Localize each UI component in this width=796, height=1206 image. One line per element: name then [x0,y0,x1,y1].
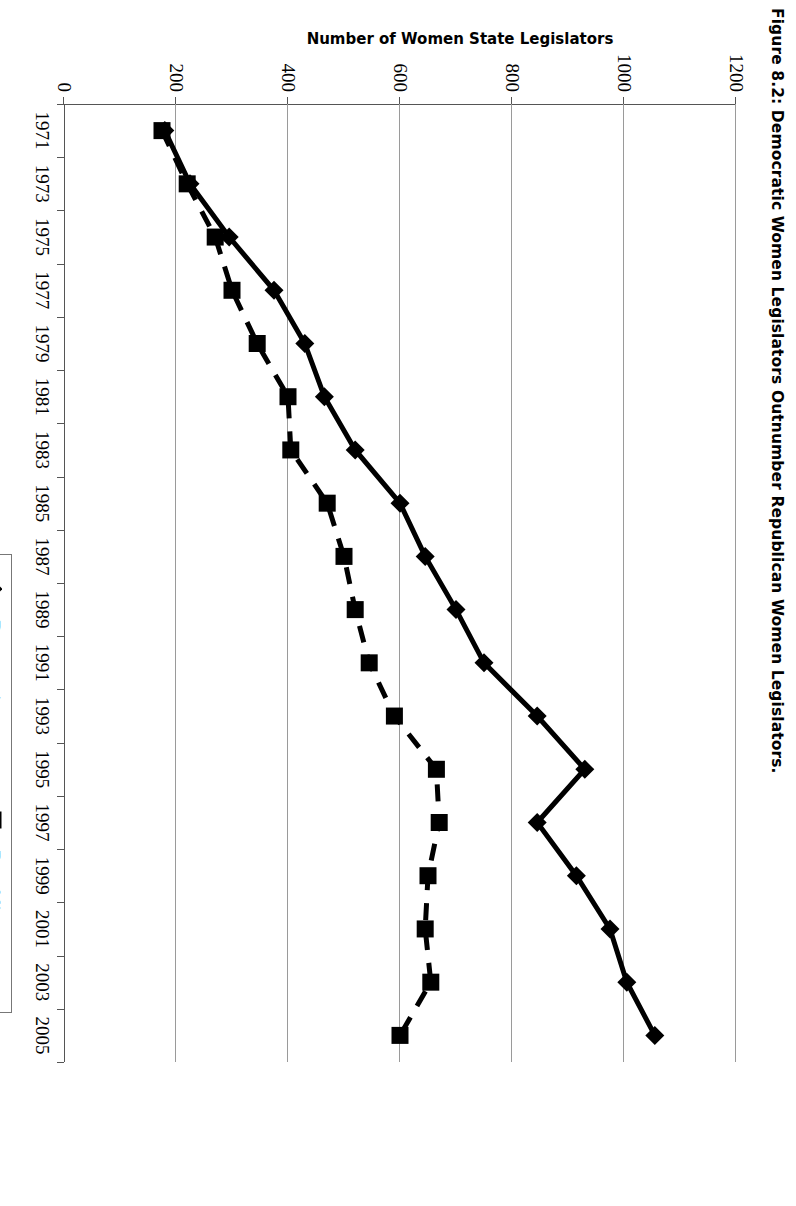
x-axis-tick [57,423,64,424]
square-marker [417,920,434,937]
x-axis-tick [57,689,64,690]
x-axis-tick [57,264,64,265]
y-axis-tick [287,97,288,104]
x-axis-tick [57,477,64,478]
x-axis-tick-label: 1999 [31,857,53,895]
x-axis-tick [57,796,64,797]
figure-title: Figure 8.2: Democratic Women Legislators… [768,8,786,774]
x-axis-tick-label: 1977 [31,271,53,309]
legend-item: Democratic women [0,565,4,769]
x-axis-tick [57,636,64,637]
square-marker [319,495,336,512]
x-axis-tick-label: 1997 [31,804,53,842]
x-axis-tick [57,1009,64,1010]
y-axis-tick [175,97,176,104]
chart-legend: Democratic womenRepublican women [0,554,12,1013]
x-axis-tick [57,210,64,211]
x-axis-tick [57,743,64,744]
y-axis-title: Number of Women State Legislators [307,30,614,48]
x-axis-tick-label: 2003 [31,963,53,1001]
x-axis-tick-label: 2005 [31,1016,53,1054]
y-axis-tick-label: 800 [501,64,523,93]
y-axis-tick [735,97,736,104]
x-axis-tick-label: 1995 [31,750,53,788]
square-marker [224,282,241,299]
diamond-marker [645,1026,664,1045]
x-axis-tick [57,583,64,584]
x-axis-tick-label: 1973 [31,165,53,203]
series-line [162,131,439,1036]
y-axis-tick [511,97,512,104]
diamond-marker [0,580,2,599]
x-axis-tick-label: 1991 [31,644,53,682]
figure: Figure 8.2: Democratic Women Legislators… [0,0,796,1206]
diamond-marker [0,565,2,613]
square-marker [282,441,299,458]
legend-label: Democratic women [0,620,4,769]
square-marker [249,335,266,352]
y-axis-tick-label: 1000 [613,54,635,92]
plot-area: 020040060080010001200 197119731975197719… [64,104,736,1062]
x-axis-tick-label: 1985 [31,484,53,522]
square-marker [347,601,364,618]
square-marker [422,974,439,991]
x-axis-tick-label: 1981 [31,378,53,416]
x-axis-tick [57,530,64,531]
x-axis-tick [57,317,64,318]
square-marker [431,814,448,831]
square-marker [207,229,224,246]
y-axis-tick-label: 400 [277,64,299,93]
y-axis-tick [399,97,400,104]
x-axis-tick-label: 1983 [31,431,53,469]
y-axis-tick [623,97,624,104]
y-axis-title-container: Number of Women State Legislators [124,28,796,50]
square-marker [386,708,403,725]
series-diamond [155,121,664,1045]
y-axis-tick [63,97,64,104]
x-axis-tick [57,157,64,158]
x-axis-tick-label: 1979 [31,325,53,363]
x-axis-tick [57,104,64,105]
y-axis-tick-label: 0 [53,83,75,93]
series-lines [64,104,736,1062]
y-axis-tick-label: 600 [389,64,411,93]
series-line [165,131,655,1036]
y-axis-tick-label: 1200 [725,54,747,92]
square-marker [392,1027,409,1044]
x-axis-tick [57,1062,64,1063]
square-marker [428,761,445,778]
x-axis-tick-label: 1975 [31,218,53,256]
square-marker [361,654,378,671]
diamond-marker [617,973,636,992]
x-axis-tick-label: 1989 [31,591,53,629]
square-marker [0,811,2,828]
square-marker [0,796,2,844]
x-axis-tick-label: 1987 [31,537,53,575]
x-axis-tick-label: 1993 [31,697,53,735]
x-axis-tick [57,902,64,903]
y-axis-tick-label: 200 [165,64,187,93]
square-marker [154,122,171,139]
x-axis-tick-label: 1971 [31,112,53,150]
rotated-page-canvas: Figure 8.2: Democratic Women Legislators… [0,0,796,1206]
square-marker [280,388,297,405]
series-square [154,122,448,1044]
x-axis-tick [57,849,64,850]
legend-label: Republican women [0,851,4,998]
square-marker [179,175,196,192]
x-axis-tick [57,370,64,371]
square-marker [336,548,353,565]
legend-item: Republican women [0,796,4,998]
x-axis-tick [57,956,64,957]
x-axis-tick-label: 2001 [31,910,53,948]
square-marker [420,867,437,884]
